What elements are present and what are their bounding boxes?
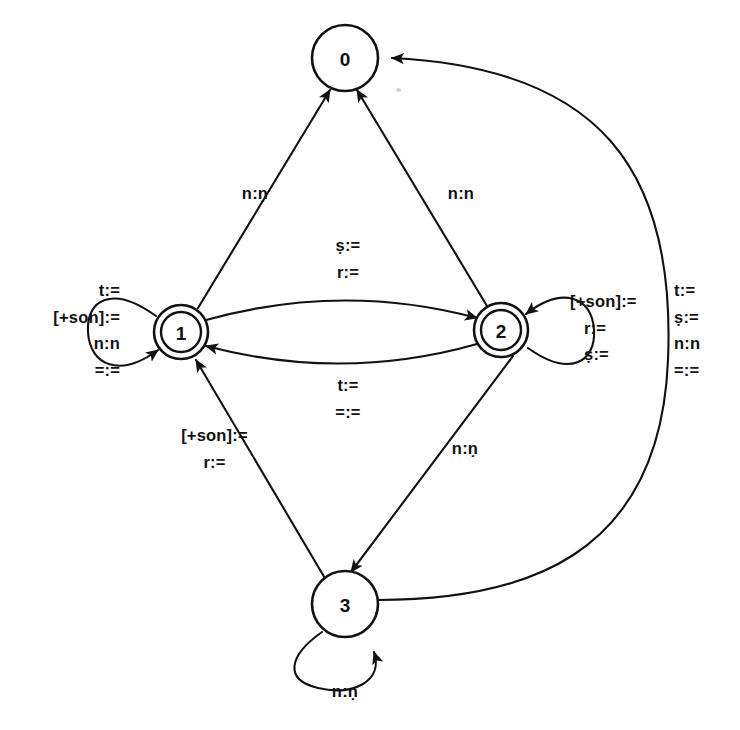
edge-label-1-to-2: ṣ:= r:= [308,232,388,285]
label-line: t:= [308,372,388,399]
edge-2-to-1 [206,344,477,364]
diagram-canvas: 0 1 2 3 n:ṇ n:n ṣ:= r:= t:= =:= [0,0,740,730]
state-1-label: 1 [176,323,187,344]
label-line: t:= [674,277,740,304]
label-line: ṣ:= [674,304,740,331]
state-2[interactable]: 2 [474,303,528,357]
state-1[interactable]: 1 [154,305,208,359]
state-2-label: 2 [496,321,507,342]
label-line: =:= [674,357,740,384]
edge-1-to-2 [206,300,477,320]
label-line: n:n [2,330,120,357]
label-line: n:ṇ [215,180,295,207]
edge-label-2-to-1: t:= =:= [308,372,388,425]
label-line: r:= [308,259,388,286]
self-loop-label-1: t:= [+son]:= n:n =:= [2,277,120,384]
edge-label-3-to-1: [+son]:= r:= [152,422,277,475]
self-loop-label-2: [+son]:= r:= ṣ:= [570,288,672,368]
label-line: n:n [421,180,501,207]
label-line: n:ṇ [425,435,505,462]
label-line: =:= [2,357,120,384]
edge-label-2-to-0: n:n [421,180,501,207]
label-line: r:= [570,315,672,342]
label-line: n:ṇ [305,678,385,705]
label-line: [+son]:= [2,304,120,331]
label-line: n:n [674,330,740,357]
state-0-label: 0 [340,49,351,70]
edge-label-3-to-0: t:= ṣ:= n:n =:= [674,277,740,384]
label-line: ṣ:= [308,232,388,259]
label-line: =:= [308,399,388,426]
label-line: ṣ:= [570,341,672,368]
edge-label-2-to-3: n:ṇ [425,435,505,462]
scan-speck [396,88,401,92]
label-line: t:= [2,277,120,304]
state-0[interactable]: 0 [312,25,378,91]
label-line: [+son]:= [570,288,672,315]
label-line: [+son]:= [152,422,277,449]
state-3-label: 3 [340,595,351,616]
edge-label-1-to-0: n:ṇ [215,180,295,207]
state-3[interactable]: 3 [312,571,378,637]
label-line: r:= [152,449,277,476]
self-loop-label-3: n:ṇ [305,678,385,705]
